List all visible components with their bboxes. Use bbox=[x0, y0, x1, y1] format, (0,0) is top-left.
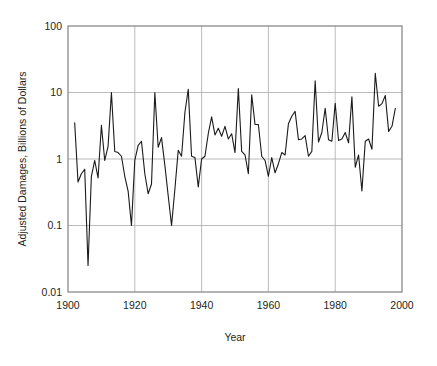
y-axis-title: Adjusted Damages, Billions of Dollars bbox=[16, 71, 28, 246]
x-tick-label: 1900 bbox=[56, 299, 80, 311]
x-tick-label: 1920 bbox=[123, 299, 147, 311]
y-tick-label: 0.1 bbox=[47, 219, 62, 231]
x-tick-label: 1940 bbox=[190, 299, 214, 311]
y-tick-label: 10 bbox=[50, 86, 62, 98]
x-tick-label: 1980 bbox=[324, 299, 348, 311]
y-tick-labels: 0.010.1110100 bbox=[42, 20, 63, 298]
x-tick-label: 2000 bbox=[390, 299, 414, 311]
damages-line-chart: 0.010.1110100 190019201940196019802000 Y… bbox=[0, 0, 437, 366]
y-tick-label: 0.01 bbox=[42, 286, 63, 298]
x-tick-label: 1960 bbox=[257, 299, 281, 311]
x-tick-labels: 190019201940196019802000 bbox=[56, 299, 414, 311]
x-axis-title: Year bbox=[224, 331, 246, 343]
y-tick-label: 100 bbox=[44, 20, 62, 32]
y-tick-label: 1 bbox=[56, 153, 62, 165]
chart-figure: 0.010.1110100 190019201940196019802000 Y… bbox=[0, 0, 437, 366]
